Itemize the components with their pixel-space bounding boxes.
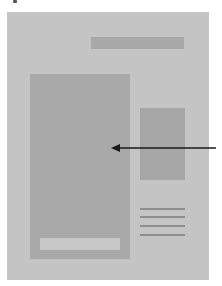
- pointer-arrow-icon: [0, 0, 222, 286]
